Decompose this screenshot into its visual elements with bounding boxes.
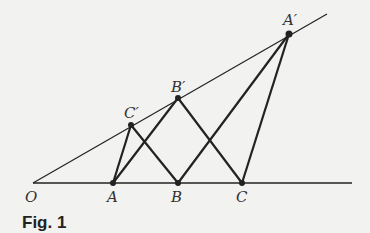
geometry-diagram: O A B C C′ B′ A′ Fig. 1 [0, 0, 370, 233]
label-cprime: C′ [124, 104, 139, 122]
point-aprime [286, 31, 293, 38]
label-a: A [105, 188, 118, 206]
label-b: B [170, 188, 182, 206]
label-o: O [25, 188, 37, 206]
label-aprime: A′ [281, 11, 298, 29]
point-c [239, 180, 245, 186]
label-c: C [236, 188, 248, 206]
segment-b-aprime [178, 34, 289, 183]
segment-c-aprime [242, 34, 289, 183]
point-cprime [128, 122, 134, 128]
figure-caption: Fig. 1 [22, 213, 66, 232]
segment-cprime-b [131, 125, 178, 183]
label-bprime: B′ [170, 78, 186, 96]
point-a [110, 180, 116, 186]
point-b [175, 180, 181, 186]
segment-a-cprime [113, 125, 131, 183]
